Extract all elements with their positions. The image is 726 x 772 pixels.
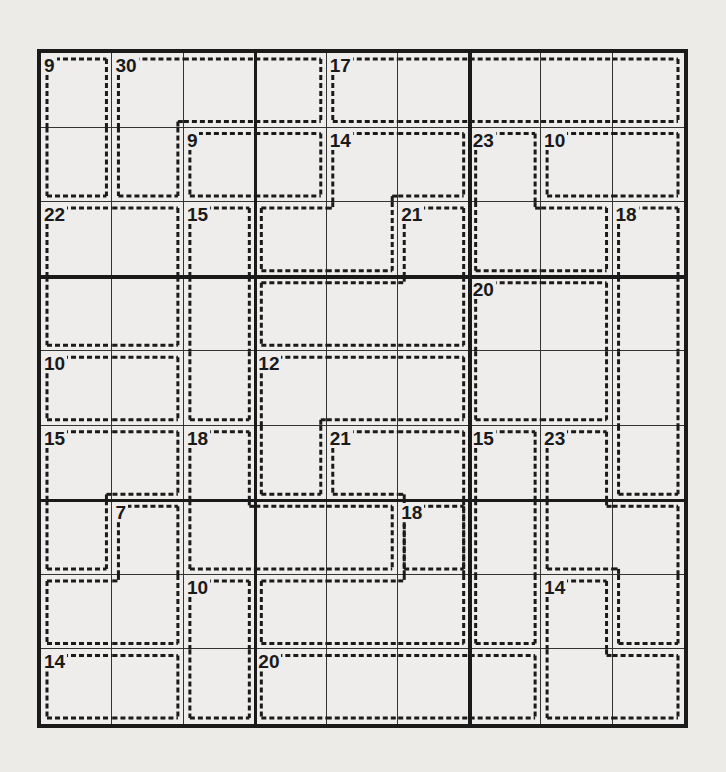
cage-sum-label: 23	[544, 429, 567, 448]
cage-sum-label: 18	[401, 503, 424, 522]
cage-sum-label: 10	[187, 578, 210, 597]
box-divider-vertical	[468, 53, 472, 724]
cage-sum-label: 22	[44, 205, 67, 224]
cage-sum-label: 21	[401, 205, 424, 224]
killer-sudoku-board: 9301791423102215211820101215182115237181…	[37, 49, 688, 728]
box-divider-vertical	[254, 53, 258, 724]
cage-sum-label: 9	[44, 56, 57, 75]
cage-sum-label: 14	[544, 578, 567, 597]
cage-sum-label: 10	[544, 131, 567, 150]
box-divider-horizontal	[41, 275, 684, 279]
cage-sum-label: 9	[187, 131, 200, 150]
cage-sum-label: 15	[473, 429, 496, 448]
cage-outlines	[41, 53, 684, 724]
cage-sum-label: 15	[44, 429, 67, 448]
box-divider-horizontal	[41, 499, 684, 503]
cage-sum-label: 18	[616, 205, 639, 224]
cage-sum-label: 18	[187, 429, 210, 448]
cage-sum-label: 21	[330, 429, 353, 448]
cage-sum-label: 30	[115, 56, 138, 75]
cage-sum-label: 20	[258, 652, 281, 671]
cage-sum-label: 10	[44, 354, 67, 373]
cage-sum-label: 17	[330, 56, 353, 75]
cage-sum-label: 23	[473, 131, 496, 150]
cage-sum-label: 7	[115, 503, 128, 522]
cage-sum-label: 15	[187, 205, 210, 224]
cage-sum-label: 14	[330, 131, 353, 150]
cage-sum-label: 14	[44, 652, 67, 671]
cage-sum-label: 20	[473, 280, 496, 299]
cage-sum-label: 12	[258, 354, 281, 373]
